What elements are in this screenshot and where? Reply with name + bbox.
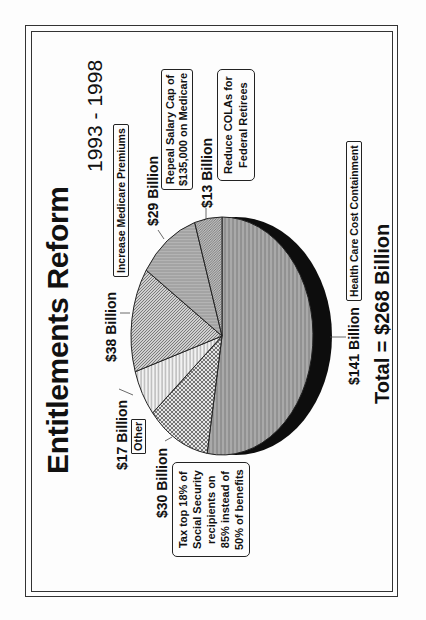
- chart-subtitle-years: 1993 - 1998: [84, 60, 105, 172]
- other-value: $17 Billion: [115, 400, 129, 470]
- salary-cap-value: $29 Billion: [146, 156, 160, 226]
- other-label: Other: [131, 419, 146, 454]
- medicare-premiums-value: $38 Billion: [104, 292, 118, 362]
- medicare-premiums-label: Increase Medicare Premiums: [113, 124, 129, 277]
- total-label: Total = $268 Billion: [372, 224, 392, 404]
- colas-value: $13 Billion: [200, 138, 214, 208]
- social-security-line-3: recipients on: [204, 469, 218, 550]
- salary-cap-label: Repeal Salary Cap of $135,000 on Medicar…: [161, 69, 193, 190]
- social-security-line-2: Social Security: [190, 469, 204, 550]
- colas-line-2: Federal Retirees: [236, 76, 251, 174]
- chart-title: Entitlements Reform: [43, 186, 73, 474]
- social-security-line-5: 50% of benefits: [232, 469, 246, 550]
- pie-slices: [131, 217, 313, 455]
- social-security-line-1: Tax top 18% of: [176, 469, 190, 550]
- colas-label: Reduce COLAs for Federal Retirees: [217, 69, 255, 181]
- social-security-label: Tax top 18% of Social Security recipient…: [172, 462, 250, 557]
- social-security-line-4: 85% instead of: [218, 469, 232, 550]
- health-care-label: Health Care Cost Containment: [346, 141, 362, 301]
- salary-cap-line-2: $135,000 on Medicare: [177, 73, 190, 186]
- colas-line-1: Reduce COLAs for: [221, 76, 236, 174]
- health-care-value: $141 Billion: [347, 307, 361, 385]
- social-security-value: $30 Billion: [155, 448, 169, 518]
- salary-cap-line-1: Repeal Salary Cap of: [164, 73, 177, 186]
